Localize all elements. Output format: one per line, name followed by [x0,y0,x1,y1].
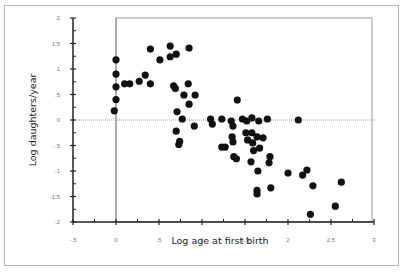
data-point [180,91,187,98]
data-point [172,85,179,92]
y-axis-title: Log daughters/year [27,74,38,167]
data-point [332,203,339,210]
x-tick-label: -.5 [69,237,77,243]
y-tick-label: 1.5 [52,41,61,47]
y-tick-label: -.5 [53,143,61,149]
y-tick-label: -1 [55,168,61,174]
data-point [248,114,255,121]
data-point [259,134,266,141]
x-axis-title: Log age at first birth [171,235,268,246]
data-point [112,96,119,103]
data-point [185,80,192,87]
data-point [136,78,143,85]
data-point [112,83,119,90]
data-point [250,147,257,154]
data-point [338,179,345,186]
data-point [112,56,119,63]
data-point [186,101,193,108]
data-point [307,211,314,218]
data-point [253,133,260,140]
y-tick-label: 2 [57,15,61,21]
data-point [173,51,180,58]
data-point [303,166,310,173]
data-point [179,115,186,122]
data-point [253,190,260,197]
data-point [209,120,216,127]
data-point [254,167,261,174]
y-tick-label: .5 [55,92,61,98]
x-tick-label: 2 [286,237,290,243]
data-point [192,91,199,98]
data-point [111,107,118,114]
y-tick-label: 1 [57,66,61,72]
data-point [191,123,198,130]
data-point [247,158,254,165]
data-point [234,97,241,104]
y-tick-label: -1.5 [50,194,61,200]
data-point [147,80,154,87]
data-point [173,108,180,115]
x-tick-label: .5 [156,237,162,243]
data-point [222,143,229,150]
x-tick-label: 3 [372,237,376,243]
scatter-chart: 21.51.50-.5-1-1.5-2 -.50.511.522.53 Log … [0,0,404,276]
data-point [255,117,262,124]
data-point [249,139,256,146]
data-points [111,42,345,218]
data-point [266,153,273,160]
data-point [147,46,154,53]
data-point [126,80,133,87]
data-point [218,115,225,122]
data-point [233,155,240,162]
data-point [284,169,291,176]
data-point [173,128,180,135]
y-tick-label: 0 [57,117,61,123]
x-tick-label: 0 [114,237,118,243]
data-point [175,141,182,148]
data-point [295,116,302,123]
data-point [264,115,271,122]
data-point [267,184,274,191]
data-point [142,72,149,79]
data-point [265,159,272,166]
x-tick-label: 2.5 [327,237,336,243]
data-point [186,44,193,51]
data-point [229,123,236,130]
data-point [156,56,163,63]
y-axis: 21.51.50-.5-1-1.5-2 [50,15,76,225]
data-point [167,42,174,49]
data-point [309,182,316,189]
y-tick-label: -2 [55,219,61,225]
data-point [112,71,119,78]
data-point [229,138,236,145]
